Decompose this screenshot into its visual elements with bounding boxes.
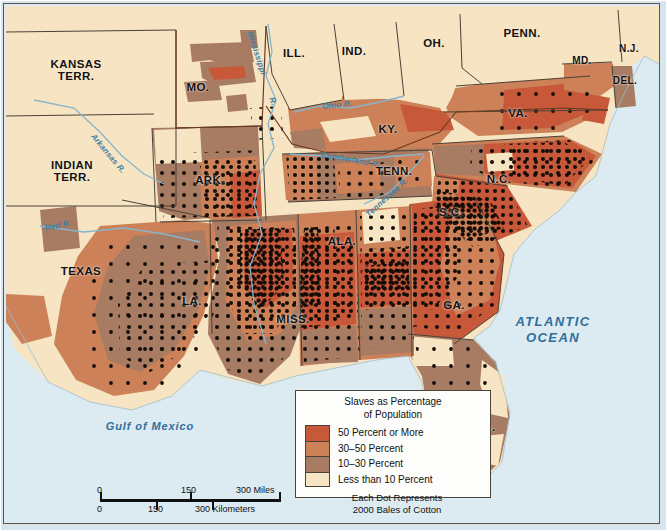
legend-dot-note: Each Dot Represents 2000 Bales of Cotton xyxy=(303,492,483,517)
scale-tick-miles-300 xyxy=(279,492,281,502)
legend-swatch-30-50 xyxy=(305,441,330,457)
legend-swatch-50-or-more xyxy=(305,425,330,441)
map-frame: KANSAS TERR. INDIAN TERR. MO. ILL. IND. … xyxy=(3,3,660,524)
legend-entry-50-or-more: 50 Percent or More xyxy=(305,425,483,441)
map-scale-bar: 0 150 300 Miles 0 150 300 Kilometers xyxy=(92,482,288,524)
legend-label-50-or-more: 50 Percent or More xyxy=(338,427,424,438)
legend-title-line1: Slaves as Percentage xyxy=(344,396,441,407)
scale-label-km-0: 0 xyxy=(97,504,102,514)
scale-label-miles-300: 300 Miles xyxy=(236,485,275,495)
legend-title: Slaves as Percentage of Population xyxy=(303,396,483,421)
legend-note-line1: Each Dot Represents xyxy=(352,492,442,503)
legend-note-line2: 2000 Bales of Cotton xyxy=(353,504,442,515)
map-legend: Slaves as Percentage of Population 50 Pe… xyxy=(295,390,491,498)
legend-label-30-50: 30–50 Percent xyxy=(338,443,403,454)
legend-entries: 50 Percent or More 30–50 Percent 10–30 P… xyxy=(305,425,483,487)
legend-entry-30-50: 30–50 Percent xyxy=(305,441,483,457)
legend-label-less-than-10: Less than 10 Percent xyxy=(338,474,433,485)
region-missouri xyxy=(176,30,260,126)
legend-entry-less-than-10: Less than 10 Percent xyxy=(305,472,483,488)
map-container: KANSAS TERR. INDIAN TERR. MO. ILL. IND. … xyxy=(0,0,667,531)
region-pennsylvania xyxy=(460,10,622,68)
scale-label-km-150: 150 xyxy=(148,504,163,514)
legend-label-10-30: 10–30 Percent xyxy=(338,458,403,469)
legend-title-line2: of Population xyxy=(364,409,422,420)
legend-swatch-less-than-10 xyxy=(305,472,330,488)
scale-label-miles-0: 0 xyxy=(97,485,102,495)
region-indiana xyxy=(334,22,402,100)
scale-label-miles-150: 150 xyxy=(181,485,196,495)
dots-missouri-bootheel xyxy=(250,106,284,140)
legend-swatch-10-30 xyxy=(305,456,330,472)
legend-entry-10-30: 10–30 Percent xyxy=(305,456,483,472)
scale-label-km-300: 300 Kilometers xyxy=(195,504,255,514)
